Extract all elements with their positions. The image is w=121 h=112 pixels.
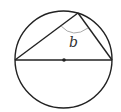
center-point (62, 58, 66, 62)
circle-diagram: b (0, 0, 121, 112)
angle-arc (61, 26, 88, 33)
angle-label: b (69, 34, 78, 50)
